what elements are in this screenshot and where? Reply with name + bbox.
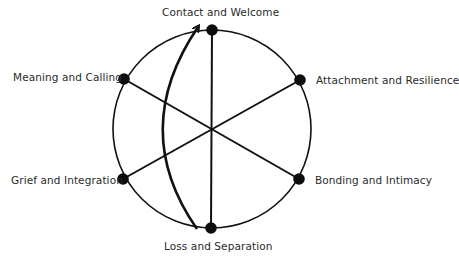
label-grief-and-integration: Grief and Integration — [11, 174, 123, 186]
label-loss-and-separation: Loss and Separation — [164, 240, 272, 252]
spokes — [123, 30, 300, 228]
label-attachment-and-resilience: Attachment and Resilience — [316, 74, 459, 86]
node-attachment — [294, 74, 306, 86]
node-loss — [205, 222, 217, 234]
node-bonding — [293, 173, 305, 185]
label-bonding-and-intimacy: Bonding and Intimacy — [315, 174, 432, 186]
label-contact-and-welcome: Contact and Welcome — [162, 6, 279, 18]
node-contact — [206, 24, 218, 36]
curved-arrow — [163, 27, 198, 229]
label-meaning-and-calling: Meaning and Calling — [13, 71, 122, 83]
